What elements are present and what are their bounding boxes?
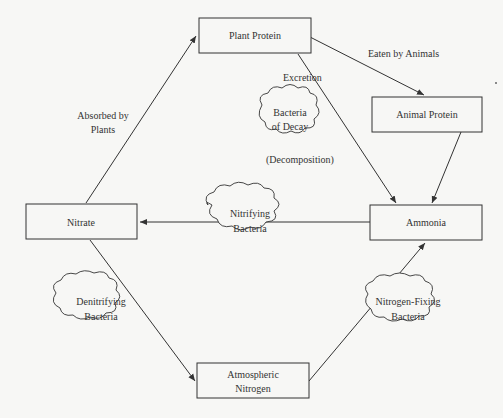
edge-plant-protein-to-animal-protein xyxy=(310,37,424,95)
node-label: Nitrogen xyxy=(235,383,271,394)
cloud-label: Bacteria xyxy=(84,311,118,322)
edge-animal-protein-to-ammonia xyxy=(432,132,461,203)
node-label: Animal Protein xyxy=(396,109,457,120)
node-label: Plant Protein xyxy=(229,30,281,41)
node-nitrate: Nitrate xyxy=(26,204,137,239)
cloud-bacteria-of-decay: Bacteria of Decay xyxy=(259,85,319,134)
cloud-nitrifying-bacteria: Nitrifying Bacteria xyxy=(206,182,279,234)
cloud-label: Nitrifying xyxy=(230,208,270,219)
edge-label-excretion: Excretion xyxy=(283,72,322,83)
cloud-label: Bacteria xyxy=(391,311,425,322)
node-ammonia: Ammonia xyxy=(370,205,482,240)
cloud-label: Nitrogen-Fixing xyxy=(376,296,441,307)
node-label: Nitrate xyxy=(67,217,95,228)
node-atmospheric-nitrogen: Atmospheric Nitrogen xyxy=(197,363,309,398)
edge-label-eaten-by-animals: Eaten by Animals xyxy=(368,48,439,59)
nitrogen-cycle-diagram: Bacteria of Decay Nitrifying Bacteria De… xyxy=(0,0,503,418)
cloud-denitrifying-bacteria: Denitrifying Bacteria xyxy=(53,271,125,322)
node-label: Ammonia xyxy=(406,217,447,228)
node-label: Atmospheric xyxy=(227,369,279,380)
edge-label-absorbed-by: Absorbed by xyxy=(77,110,128,121)
node-plant-protein: Plant Protein xyxy=(199,18,311,53)
node-animal-protein: Animal Protein xyxy=(372,97,482,132)
cloud-nitrogen-fixing-bacteria: Nitrogen-Fixing Bacteria xyxy=(365,273,440,322)
cloud-label: Bacteria xyxy=(273,107,307,118)
cloud-label: Bacteria xyxy=(233,223,267,234)
cloud-label: of Decay xyxy=(272,121,308,132)
print-speck xyxy=(495,82,497,84)
cloud-label: Denitrifying xyxy=(76,296,125,307)
edge-label-plants: Plants xyxy=(91,124,116,135)
edge-label-decomposition: (Decomposition) xyxy=(266,154,334,166)
